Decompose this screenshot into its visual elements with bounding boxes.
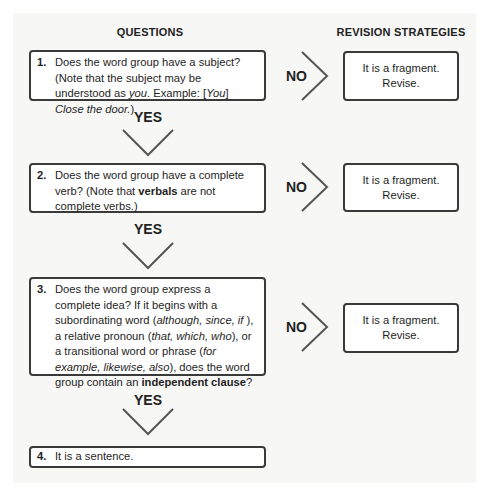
questions-header: QUESTIONS [95, 26, 205, 38]
sentence-text: It is a sentence. [55, 450, 133, 462]
yes-label-1: YES [118, 109, 178, 125]
chevron-right-icon [300, 162, 330, 212]
question-text: Does the word group have a complete verb… [55, 169, 244, 212]
revision-box-3: It is a fragment. Revise. [343, 303, 459, 353]
question-box-2: 2. Does the word group have a complete v… [29, 163, 266, 213]
chevron-down-icon [122, 241, 174, 271]
revision-line-1: It is a fragment. [362, 173, 439, 188]
revision-strategies-header: REVISION STRATEGIES [336, 26, 466, 38]
chevron-down-icon [122, 128, 174, 158]
question-box-3: 3. Does the word group express a complet… [29, 277, 266, 376]
step-number: 4. [37, 449, 46, 465]
step-number: 2. [37, 168, 46, 184]
question-text: Does the word group express a complete i… [55, 283, 253, 388]
step-number: 3. [37, 282, 46, 298]
yes-label-3: YES [118, 392, 178, 408]
revision-line-1: It is a fragment. [362, 61, 439, 76]
yes-label-2: YES [118, 221, 178, 237]
step-number: 1. [37, 55, 46, 71]
revision-box-1: It is a fragment. Revise. [343, 51, 459, 101]
revision-box-2: It is a fragment. Revise. [343, 163, 459, 212]
question-box-1: 1. Does the word group have a subject? (… [29, 50, 266, 101]
chevron-right-icon [300, 302, 330, 352]
chevron-down-icon [122, 407, 174, 437]
revision-line-2: Revise. [362, 188, 439, 203]
question-box-4: 4. It is a sentence. [29, 446, 266, 468]
revision-line-1: It is a fragment. [362, 313, 439, 328]
revision-line-2: Revise. [362, 328, 439, 343]
chevron-right-icon [300, 51, 330, 101]
revision-line-2: Revise. [362, 76, 439, 91]
